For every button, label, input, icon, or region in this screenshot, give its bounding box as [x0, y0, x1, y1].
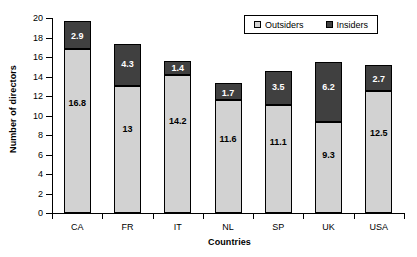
legend-swatch-insiders-icon: [326, 21, 333, 28]
x-axis-tick: [303, 214, 304, 219]
y-axis-tick-label: 0: [10, 208, 52, 218]
y-axis-tick-label: 6: [10, 150, 52, 160]
x-axis-tick: [354, 214, 355, 219]
bar-group: 12.52.7: [365, 18, 392, 213]
bar-group: 134.3: [114, 18, 141, 213]
x-axis-tick-label: SP: [272, 222, 284, 232]
y-axis-tick-label: 14: [10, 72, 52, 82]
bar-segment-outsiders: 11.6: [215, 100, 242, 213]
bar-segment-insiders: 6.2: [315, 62, 342, 122]
bar-group: 16.82.9: [64, 18, 91, 213]
bar-value-label-outsiders: 16.8: [68, 99, 86, 108]
bar-segment-outsiders: 11.1: [265, 105, 292, 213]
bar-segment-insiders: 3.5: [265, 71, 292, 105]
x-axis-tick: [153, 214, 154, 219]
legend-label-insiders: Insiders: [337, 20, 369, 30]
bar-value-label-outsiders: 13: [122, 125, 132, 134]
x-axis-tick: [102, 214, 103, 219]
x-axis-tick-label: FR: [121, 222, 133, 232]
x-axis-tick: [52, 214, 53, 219]
bar-value-label-outsiders: 9.3: [322, 151, 335, 160]
bar-group: 11.13.5: [265, 18, 292, 213]
y-axis-tick-label: 2: [10, 189, 52, 199]
legend-entry-insiders: Insiders: [326, 20, 369, 30]
x-axis-title: Countries: [52, 237, 407, 247]
bar-value-label-insiders: 2.7: [373, 75, 386, 84]
bar-value-label-insiders: 2.9: [71, 32, 84, 41]
bar-segment-outsiders: 13: [114, 86, 141, 213]
legend-swatch-outsiders-icon: [254, 21, 261, 28]
y-axis-tick-label: 12: [10, 91, 52, 101]
x-axis-tick: [253, 214, 254, 219]
bar-group: 11.61.7: [215, 18, 242, 213]
bar-segment-insiders: 2.9: [64, 21, 91, 49]
y-axis-tick-label: 10: [10, 111, 52, 121]
bar-value-label-outsiders: 14.2: [169, 117, 187, 126]
legend-label-outsiders: Outsiders: [265, 20, 304, 30]
chart-legend: Outsiders Insiders: [244, 15, 378, 34]
y-axis-tick-label: 20: [10, 13, 52, 23]
bar-group: 9.36.2: [315, 18, 342, 213]
bar-segment-insiders: 2.7: [365, 65, 392, 91]
bar-value-label-outsiders: 11.1: [270, 138, 287, 147]
bar-value-label-outsiders: 12.5: [370, 129, 388, 138]
y-axis-tick-label: 4: [10, 169, 52, 179]
bar-segment-insiders: 1.4: [164, 61, 191, 75]
y-axis-tick-label: 8: [10, 130, 52, 140]
bar-segment-insiders: 1.7: [215, 83, 242, 100]
y-axis-tick-label: 16: [10, 52, 52, 62]
x-axis-tick-label: UK: [322, 222, 335, 232]
x-axis-tick-label: CA: [71, 222, 84, 232]
bar-value-label-insiders: 3.5: [272, 83, 285, 92]
bar-value-label-insiders: 1.7: [222, 89, 235, 98]
bar-segment-outsiders: 12.5: [365, 91, 392, 213]
bar-value-label-insiders: 1.4: [171, 64, 184, 73]
bar-value-label-outsiders: 11.6: [219, 135, 236, 144]
x-axis-tick-label: NL: [222, 222, 234, 232]
bar-value-label-insiders: 6.2: [322, 83, 335, 92]
bar-segment-outsiders: 16.8: [64, 49, 91, 213]
bar-value-label-insiders: 4.3: [121, 60, 134, 69]
x-axis-tick-label: USA: [370, 222, 389, 232]
x-axis-line: [52, 213, 405, 214]
legend-entry-outsiders: Outsiders: [254, 20, 304, 30]
bar-group: 14.21.4: [164, 18, 191, 213]
stacked-bar-chart: Number of directors Countries 0246810121…: [0, 0, 417, 257]
bar-segment-outsiders: 14.2: [164, 75, 191, 213]
bar-segment-outsiders: 9.3: [315, 122, 342, 213]
x-axis-tick-label: IT: [174, 222, 182, 232]
x-axis-tick: [203, 214, 204, 219]
x-axis-tick: [404, 214, 405, 219]
plot-area: 16.82.9134.314.21.411.61.711.13.59.36.21…: [52, 18, 404, 213]
bar-segment-insiders: 4.3: [114, 44, 141, 86]
y-axis-tick-label: 18: [10, 33, 52, 43]
